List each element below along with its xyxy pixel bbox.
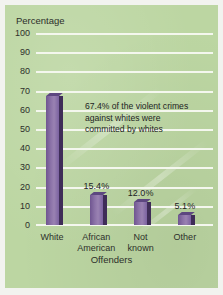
bar-value-label: 15.4%	[84, 182, 110, 191]
y-axis-tick-label: 0	[25, 221, 30, 230]
annotation-line-3: committed by whites	[85, 124, 207, 136]
x-axis-category-label: African American	[77, 232, 115, 254]
gridline	[36, 52, 213, 54]
plot-area: 1009080706050403020100 White15.4%African…	[36, 33, 213, 225]
bar-top-face	[46, 93, 63, 96]
bar-side-face	[59, 96, 63, 225]
y-axis-tick-label: 70	[20, 86, 30, 95]
y-axis-tick-label: 10	[20, 201, 30, 210]
y-axis-tick-label: 90	[20, 48, 30, 57]
y-axis-tick-label: 100	[15, 29, 30, 38]
y-axis-tick-label: 60	[20, 105, 30, 114]
y-axis-tick-label: 30	[20, 163, 30, 172]
bar-side-face	[147, 202, 151, 225]
chart-annotation: 67.4% of the violent crimes against whit…	[85, 101, 207, 136]
bar: 5.1%Other	[178, 215, 191, 225]
bar: 12.0%Not known	[134, 202, 147, 225]
y-axis-tick-label: 50	[20, 125, 30, 134]
gridline	[36, 71, 213, 73]
x-axis-category-label: White	[41, 232, 64, 243]
y-axis-title: Percentage	[16, 16, 65, 26]
bar-chart-figure: Percentage 1009080706050403020100 White1…	[0, 0, 223, 295]
bar-side-face	[191, 215, 195, 225]
bar: 15.4%African American	[90, 195, 103, 225]
bar: White	[46, 96, 59, 225]
bar-side-face	[103, 195, 107, 225]
chart-panel: Percentage 1009080706050403020100 White1…	[5, 5, 218, 288]
annotation-line-1: 67.4% of the violent crimes	[85, 101, 207, 113]
y-axis-tick-label: 80	[20, 67, 30, 76]
y-axis-tick-label: 20	[20, 182, 30, 191]
x-axis-title: Offenders	[5, 254, 218, 265]
bar-value-label: 5.1%	[175, 202, 196, 211]
y-axis-tick-label: 40	[20, 144, 30, 153]
x-axis-category-label: Other	[174, 232, 197, 243]
x-axis-category-label: Not known	[128, 232, 154, 254]
annotation-line-2: against whites were	[85, 113, 207, 125]
bar-value-label: 12.0%	[128, 189, 154, 198]
gridline	[36, 33, 213, 35]
